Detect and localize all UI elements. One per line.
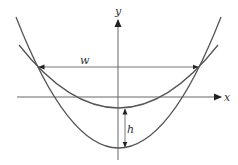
- width-label: w: [80, 54, 90, 67]
- y-axis-label: y: [114, 5, 122, 18]
- height-label: h: [127, 123, 134, 136]
- parabola-diagram: y x w h: [0, 0, 238, 165]
- x-axis-label: x: [224, 91, 231, 104]
